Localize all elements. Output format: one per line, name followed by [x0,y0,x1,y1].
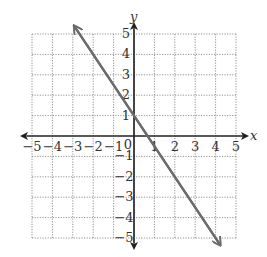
y-axis-label: y [129,9,138,24]
x-tick-label: 5 [232,139,240,154]
x-tick-label: 2 [171,139,179,154]
y-tick-label: −5 [114,230,133,245]
y-tick-label: 5 [122,26,130,41]
y-tick-label: −2 [114,169,133,184]
coordinate-plane: xy −5−4−3−2−112345012345−1−2−3−4−5 [0,0,267,257]
x-tick-label: −2 [84,139,103,154]
axes: xy [22,9,258,248]
x-tick-label: 4 [211,139,219,154]
x-tick-label: −4 [43,139,62,154]
y-tick-label: −3 [114,189,133,204]
y-tick-label: 4 [122,46,130,61]
y-tick-label: −4 [114,210,133,225]
y-tick-label: 3 [122,67,130,82]
x-tick-label: 3 [191,139,199,154]
y-tick-label: −1 [114,148,133,163]
x-tick-label: −5 [22,139,41,154]
x-axis-label: x [250,128,258,143]
x-tick-label: −3 [63,139,82,154]
